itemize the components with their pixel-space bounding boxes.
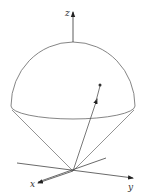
y-axis-label: y — [127, 182, 134, 192]
position-vector — [73, 99, 97, 171]
base-ellipse — [11, 106, 135, 119]
x-axis-label: x — [30, 179, 35, 189]
point — [99, 84, 102, 87]
x-axis-arrow — [38, 171, 73, 183]
diagram-canvas: z y x — [0, 0, 144, 196]
hemisphere-dome — [11, 42, 135, 106]
x-axis — [38, 158, 106, 182]
z-axis-label: z — [64, 8, 70, 18]
position-vector-ext — [96, 86, 100, 101]
